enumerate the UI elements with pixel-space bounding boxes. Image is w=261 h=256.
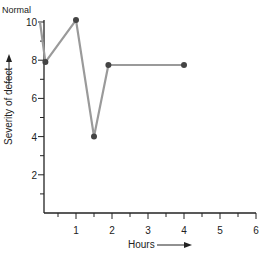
y-tick-label: 4 bbox=[31, 132, 37, 143]
data-point bbox=[181, 62, 187, 68]
x-tick-label: 2 bbox=[109, 225, 115, 236]
x-axis-arrow-icon bbox=[157, 242, 192, 248]
y-tick-label: 2 bbox=[31, 170, 37, 181]
x-axis-label: Hours bbox=[128, 239, 155, 250]
y-axis: 246810 bbox=[26, 17, 44, 213]
data-point bbox=[91, 134, 97, 140]
x-tick-label: 4 bbox=[181, 225, 187, 236]
annotation-normal: Normal bbox=[2, 5, 31, 15]
x-tick-label: 1 bbox=[73, 225, 79, 236]
data-series bbox=[40, 17, 187, 140]
x-tick-label: 5 bbox=[217, 225, 223, 236]
y-tick-label: 6 bbox=[31, 93, 37, 104]
y-tick-label: 10 bbox=[26, 17, 38, 28]
data-point bbox=[73, 17, 79, 23]
data-point bbox=[105, 62, 111, 68]
x-tick-label: 3 bbox=[145, 225, 151, 236]
y-tick-label: 8 bbox=[31, 55, 37, 66]
line-chart: Normal 246810 123456 Severity of defect … bbox=[0, 0, 261, 256]
series-line bbox=[40, 20, 184, 137]
x-axis: 123456 bbox=[44, 213, 259, 236]
data-point bbox=[42, 59, 48, 65]
x-tick-label: 6 bbox=[253, 225, 259, 236]
